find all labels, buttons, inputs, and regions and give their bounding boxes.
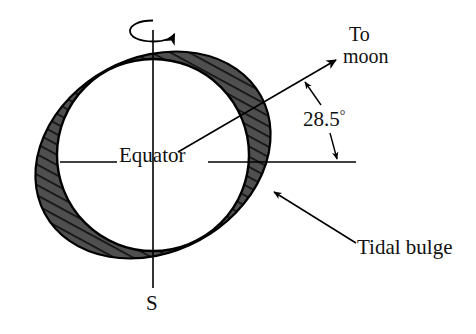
degree-symbol: ° [340, 108, 346, 123]
equator-label: Equator [119, 144, 185, 167]
to-moon-label: To moon [343, 24, 389, 67]
tidal-bulge-label: Tidal bulge [357, 236, 452, 259]
tidal-bulge-diagram: To moon 28.5° Equator Tidal bulge S [0, 0, 476, 334]
to-moon-label-line1: To [343, 24, 389, 46]
angle-value: 28.5 [303, 107, 340, 131]
angle-label: 28.5° [303, 108, 345, 131]
south-pole-label: S [146, 292, 158, 315]
diagram-canvas [0, 0, 476, 334]
to-moon-label-line2: moon [343, 46, 389, 68]
